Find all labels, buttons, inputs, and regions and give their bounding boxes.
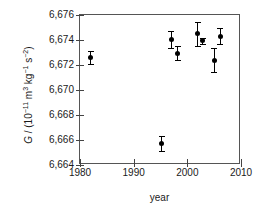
y-tick-mark-inner: [80, 140, 84, 141]
y-tick-mark-inner: [80, 90, 84, 91]
y-tick-mark-inner: [80, 115, 84, 116]
x-tick-label: 1980: [69, 168, 91, 178]
data-point-marker: [169, 37, 174, 42]
y-tick-label: 6,674: [49, 35, 74, 45]
error-bar-cap-top: [195, 22, 201, 23]
x-tick-mark-inner: [134, 159, 135, 163]
plot-area: 6,6646,6666,6686,6706,6726,6746,676 1980…: [79, 14, 240, 164]
y-axis-close: ): [23, 46, 34, 49]
error-bar-cap-bottom: [217, 44, 223, 45]
error-bar-cap-top: [211, 48, 217, 49]
error-bar-cap-bottom: [175, 60, 181, 61]
x-tick-mark-inner: [80, 159, 81, 163]
y-axis-separator: / (10: [23, 113, 34, 136]
y-axis-exp2: 3: [22, 87, 29, 91]
x-tick-label: 2000: [176, 168, 198, 178]
figure-container: 6,6646,6666,6686,6706,6726,6746,676 1980…: [0, 0, 264, 218]
error-bar-cap-bottom: [168, 48, 174, 49]
x-tick-mark-inner: [241, 159, 242, 163]
y-axis-unit2: kg: [23, 74, 34, 87]
y-axis-exp3: −1: [22, 66, 29, 74]
y-tick-label: 6,676: [49, 10, 74, 20]
y-tick-mark-inner: [80, 15, 84, 16]
y-axis-unit3: s: [23, 58, 34, 66]
error-bar-cap-top: [217, 28, 223, 29]
error-bar-cap-top: [168, 31, 174, 32]
error-bar-cap-bottom: [211, 72, 217, 73]
data-point-marker: [175, 51, 180, 56]
data-point-marker: [218, 34, 223, 39]
y-axis-exp1: −11: [22, 102, 29, 113]
error-bar-cap-bottom: [195, 46, 201, 47]
data-point-marker: [88, 55, 93, 60]
error-bar-cap-top: [175, 46, 181, 47]
x-tick-label: 2010: [230, 168, 252, 178]
error-bar-cap-top: [159, 136, 165, 137]
x-axis-title: year: [79, 192, 240, 203]
y-tick-label: 6,666: [49, 135, 74, 145]
error-bar-cap-bottom: [200, 44, 206, 45]
y-tick-mark-inner: [80, 65, 84, 66]
error-bar-cap-bottom: [88, 64, 94, 65]
y-axis-exp4: −2: [22, 50, 29, 58]
error-bar-cap-top: [88, 51, 94, 52]
x-tick-mark-inner: [187, 159, 188, 163]
x-tick-label: 1990: [123, 168, 145, 178]
y-axis-unit1: m: [23, 91, 34, 102]
y-axis-symbol: G: [23, 136, 34, 144]
y-axis-title: G / (10−11 m3 kg−1 s−2): [22, 20, 34, 170]
y-tick-mark-inner: [80, 40, 84, 41]
y-tick-label: 6,670: [49, 85, 74, 95]
data-point-marker: [200, 38, 205, 43]
data-point-marker: [195, 31, 200, 36]
data-point-marker: [159, 141, 164, 146]
y-tick-label: 6,672: [49, 60, 74, 70]
y-tick-label: 6,668: [49, 110, 74, 120]
error-bar-cap-bottom: [159, 151, 165, 152]
data-point-marker: [212, 58, 217, 63]
